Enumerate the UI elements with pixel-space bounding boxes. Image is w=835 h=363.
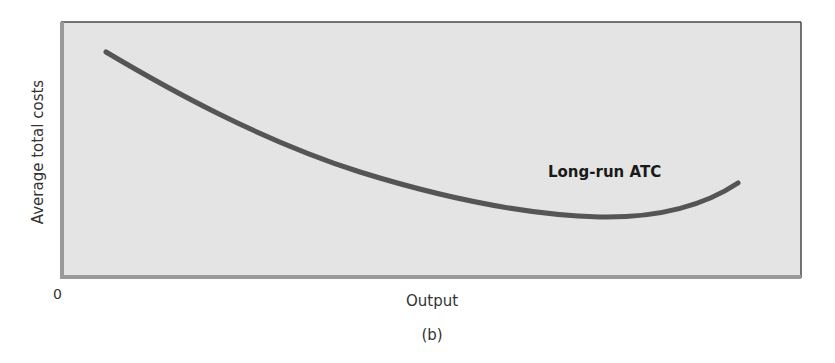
- panel-label: (b): [421, 326, 442, 344]
- origin-label: 0: [53, 286, 62, 302]
- x-axis-label: Output: [406, 292, 458, 310]
- y-axis-label: Average total costs: [29, 80, 47, 224]
- plot-area: [61, 22, 801, 278]
- curve-label: Long-run ATC: [548, 163, 661, 181]
